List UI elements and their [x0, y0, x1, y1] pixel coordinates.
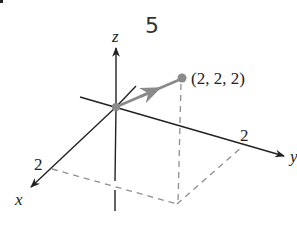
z-axis-lower: [115, 107, 116, 181]
origin-dot: [112, 103, 120, 111]
x-tick-label: 2: [34, 155, 43, 174]
point-label: (2, 2, 2): [191, 69, 245, 88]
point-dot: [178, 74, 187, 83]
projection-lines: [52, 84, 243, 204]
dashed-point-to-base: [178, 84, 181, 204]
handwritten-note: 5: [145, 13, 159, 38]
z-axis-label: z: [111, 27, 119, 46]
y-tick-label: 2: [240, 126, 249, 145]
3d-vector-diagram: 5 z y x 2 2 (2, 2, 2): [0, 0, 297, 231]
corner-mark: [0, 0, 3, 3]
x-axis-label: x: [14, 190, 23, 209]
x-axis: [31, 86, 136, 187]
y-axis-label: y: [288, 147, 297, 166]
dashed-base-to-y: [177, 146, 243, 204]
vector-arrowhead: [140, 92, 152, 97]
y-axis-line: [80, 97, 284, 156]
